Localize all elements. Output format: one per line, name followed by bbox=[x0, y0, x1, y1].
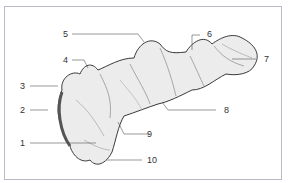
label-9: 9 bbox=[147, 130, 152, 139]
label-5: 5 bbox=[63, 30, 68, 39]
label-4: 4 bbox=[63, 56, 68, 65]
label-6: 6 bbox=[207, 30, 212, 39]
label-10: 10 bbox=[147, 156, 157, 165]
label-2: 2 bbox=[20, 106, 25, 115]
label-1: 1 bbox=[20, 139, 25, 148]
label-8: 8 bbox=[224, 106, 229, 115]
organ-illustration bbox=[0, 0, 290, 183]
label-3: 3 bbox=[20, 82, 25, 91]
label-7: 7 bbox=[264, 55, 269, 64]
